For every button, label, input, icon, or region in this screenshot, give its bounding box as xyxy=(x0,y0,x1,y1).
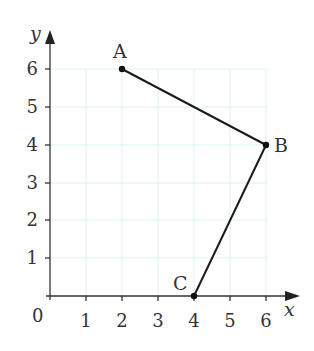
svg-text:6: 6 xyxy=(27,58,38,79)
y-axis-label: y xyxy=(29,22,41,44)
svg-text:1: 1 xyxy=(27,247,38,268)
point-b-label: B xyxy=(274,134,288,156)
y-tick-labels: 1 2 3 4 5 6 xyxy=(27,58,38,268)
coordinate-diagram: y x 0 1 2 3 4 5 6 1 2 3 4 5 6 A B C xyxy=(0,0,314,351)
svg-text:5: 5 xyxy=(224,310,235,331)
point-c-label: C xyxy=(173,272,188,294)
axes xyxy=(45,42,288,301)
x-tick-labels: 1 2 3 4 5 6 xyxy=(80,310,271,331)
svg-text:2: 2 xyxy=(27,209,38,230)
svg-text:3: 3 xyxy=(152,310,163,331)
origin-label: 0 xyxy=(32,305,43,326)
grid xyxy=(50,69,266,296)
point-b xyxy=(263,142,269,148)
point-c xyxy=(191,293,197,299)
point-a xyxy=(119,66,125,72)
point-a-label: A xyxy=(112,40,127,62)
svg-text:1: 1 xyxy=(80,310,91,331)
svg-text:3: 3 xyxy=(27,172,38,193)
svg-text:6: 6 xyxy=(260,310,271,331)
y-axis-arrow-icon xyxy=(45,30,55,44)
svg-text:4: 4 xyxy=(188,310,199,331)
svg-text:5: 5 xyxy=(27,96,38,117)
svg-text:4: 4 xyxy=(27,134,38,155)
x-axis-label: x xyxy=(284,298,295,320)
svg-text:2: 2 xyxy=(116,310,127,331)
